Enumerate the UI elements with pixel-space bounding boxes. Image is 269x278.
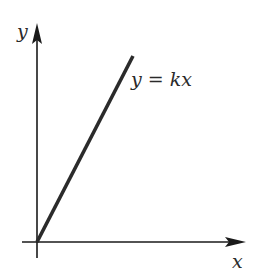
equation-label: y = kx [130, 68, 192, 90]
x-axis-label: x [232, 250, 243, 272]
line-y-equals-kx [37, 56, 133, 242]
graph-canvas: y x y = kx [0, 0, 269, 278]
y-axis-label: y [16, 20, 28, 42]
